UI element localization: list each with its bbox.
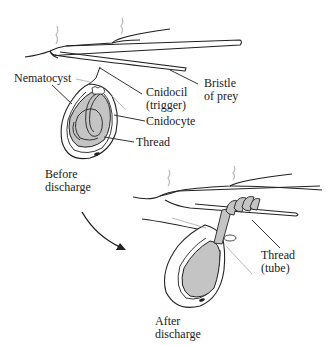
label-cnidocyte: Cnidocyte [146,115,195,128]
transition-arrow-icon [82,212,126,250]
label-after-sub: discharge [155,328,201,341]
prey-hair-icon [168,166,235,186]
label-bristle-sub: of prey [204,90,238,103]
after-panel [133,166,322,307]
label-thread: Thread [136,136,170,149]
label-thread-tube-sub: (tube) [261,262,290,275]
prey-hair-icon [56,18,123,44]
label-cnidocil-sub: (trigger) [146,99,186,112]
nematocyst-diagram: Nematocyst Cnidocil (trigger) Bristle of… [0,0,334,345]
prey-bristle [25,29,242,71]
cnidocil-trigger [89,67,100,84]
leader-line-thread-tube [252,220,280,248]
label-nematocyst: Nematocyst [14,72,71,85]
label-before-sub: discharge [45,181,91,194]
